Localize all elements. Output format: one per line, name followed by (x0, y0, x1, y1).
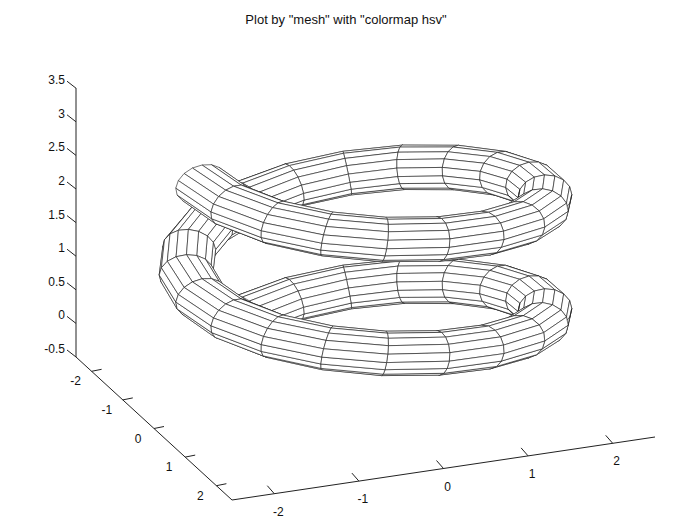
x-tick-label: 1 (529, 467, 536, 481)
mesh-face (385, 361, 449, 370)
x-tick-mark (606, 435, 613, 443)
helix-mesh-surface (159, 145, 572, 376)
z-tick-mark (67, 182, 76, 189)
z-tick-label: 0.5 (48, 275, 65, 289)
mesh-face (385, 247, 449, 255)
x-tick-mark (437, 461, 444, 469)
y-tick-label: 2 (197, 489, 204, 503)
z-tick-label: 0 (58, 308, 65, 322)
z-tick-label: 3 (58, 107, 65, 121)
x-tick-mark (267, 486, 274, 494)
y-tick-label: 1 (166, 460, 173, 474)
plot-area: -0.500.511.522.533.5 -2-1012 -2-1012 (0, 0, 692, 525)
z-tick-mark (67, 216, 76, 223)
z-tick-mark (67, 81, 76, 88)
mesh-face (397, 167, 443, 176)
mesh-face (400, 297, 449, 302)
y-tick-mark (154, 427, 164, 429)
z-tick-label: -0.5 (44, 342, 65, 356)
z-tick-label: 2 (58, 174, 65, 188)
z-tick-mark (67, 115, 76, 122)
x-tick-label: -1 (358, 492, 369, 506)
z-axis-ticks: -0.500.511.522.533.5 (44, 73, 76, 357)
mesh-face (398, 147, 453, 152)
y-tick-mark (216, 484, 226, 486)
x-tick-label: 2 (613, 454, 620, 468)
mesh-face (397, 266, 448, 274)
z-tick-mark (67, 350, 76, 357)
z-tick-mark (67, 148, 76, 155)
y-tick-mark (92, 369, 102, 371)
mesh-face (397, 281, 443, 290)
y-tick-label: 0 (135, 432, 142, 446)
mesh-face (187, 229, 199, 255)
x-axis-ticks: -2-1012 (267, 435, 620, 518)
z-tick-label: 3.5 (48, 73, 65, 87)
y-tick-label: -1 (101, 403, 112, 417)
z-tick-mark (67, 316, 76, 323)
x-tick-mark (352, 473, 359, 481)
mesh-face (398, 176, 445, 184)
mesh-face (398, 290, 445, 298)
z-tick-label: 2.5 (48, 140, 65, 154)
mesh-face (397, 159, 444, 168)
x-tick-label: -2 (273, 505, 284, 519)
mesh-face (400, 183, 449, 188)
z-tick-label: 1 (58, 241, 65, 255)
mesh-face (397, 273, 444, 282)
y-tick-mark (123, 398, 133, 400)
y-axis-ticks: -2-1012 (70, 369, 226, 502)
x-tick-label: 0 (444, 480, 451, 494)
z-tick-mark (67, 283, 76, 290)
y-tick-label: -2 (70, 374, 81, 388)
y-tick-mark (185, 455, 195, 457)
z-tick-label: 1.5 (48, 208, 65, 222)
z-tick-mark (67, 249, 76, 256)
x-tick-mark (521, 448, 528, 456)
mesh-face (397, 152, 448, 160)
